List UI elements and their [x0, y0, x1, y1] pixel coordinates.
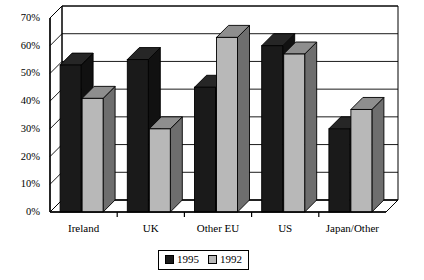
bar-us-1992 — [284, 42, 317, 212]
bar-uk-1992 — [149, 117, 182, 212]
x-axis-tick-label: US — [278, 222, 292, 234]
gray-swatch-icon — [208, 255, 217, 264]
legend-label: 1992 — [220, 254, 242, 265]
x-axis-tick-label: Ireland — [68, 222, 99, 234]
plot-area — [0, 0, 424, 280]
legend-label: 1995 — [177, 254, 199, 265]
bar-other-eu-1992 — [217, 25, 250, 212]
axis-tick-connector — [50, 34, 62, 46]
x-axis-tick-label: Other EU — [197, 222, 239, 234]
x-axis-tick-label: Japan/Other — [326, 222, 379, 234]
bar-chart: 0%10%20%30%40%50%60%70% IrelandUKOther E… — [0, 0, 424, 280]
bar-japan-other-1992 — [351, 97, 384, 212]
bar-ireland-1992 — [82, 86, 115, 212]
x-axis-tick-label: UK — [143, 222, 159, 234]
legend-entry-1992: 1992 — [208, 254, 242, 265]
black-swatch-icon — [165, 255, 174, 264]
legend-entry-1995: 1995 — [165, 254, 199, 265]
chart-legend: 19951992 — [158, 250, 249, 270]
